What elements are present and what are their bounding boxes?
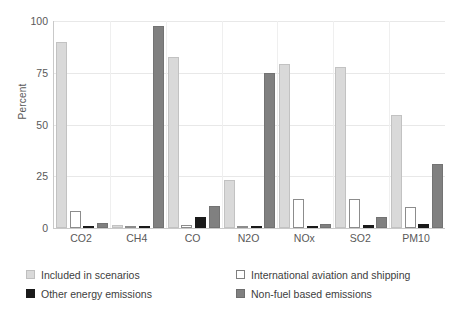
y-axis-tick-label: 75	[16, 68, 48, 79]
bar[interactable]	[83, 226, 94, 228]
legend-swatch-icon	[236, 289, 245, 298]
bar[interactable]	[432, 164, 443, 228]
bar[interactable]	[168, 57, 179, 228]
bar-groups	[54, 21, 445, 228]
bar-group	[389, 21, 445, 228]
x-axis-tick-label: CO2	[53, 232, 109, 250]
bar[interactable]	[181, 225, 192, 228]
bar[interactable]	[418, 224, 429, 228]
legend-label: Other energy emissions	[41, 288, 152, 300]
x-axis-tick-label: CH4	[109, 232, 165, 250]
legend-label: Included in scenarios	[41, 269, 140, 281]
y-axis-tick-label: 0	[16, 223, 48, 234]
bar[interactable]	[264, 73, 275, 228]
bar[interactable]	[349, 199, 360, 228]
bar[interactable]	[391, 115, 402, 228]
bar[interactable]	[293, 199, 304, 228]
bar[interactable]	[112, 225, 123, 228]
bar[interactable]	[376, 217, 387, 228]
bar[interactable]	[363, 225, 374, 228]
bar-group	[166, 21, 222, 228]
legend-item[interactable]: International aviation and shipping	[236, 265, 446, 284]
legend-item[interactable]: Included in scenarios	[26, 265, 236, 284]
bar-group	[222, 21, 278, 228]
bar[interactable]	[195, 217, 206, 228]
legend-swatch-icon	[236, 270, 245, 279]
x-axis-tick-label: CO	[165, 232, 221, 250]
bar[interactable]	[70, 211, 81, 228]
bar[interactable]	[405, 207, 416, 228]
bar[interactable]	[251, 226, 262, 228]
bar[interactable]	[125, 226, 136, 228]
x-axis-tick-label: N2O	[221, 232, 277, 250]
legend-label: International aviation and shipping	[251, 269, 410, 281]
bar[interactable]	[307, 226, 318, 228]
bar[interactable]	[209, 206, 220, 228]
x-axis-tick-label: NOx	[276, 232, 332, 250]
y-axis-tick-label: 100	[16, 16, 48, 27]
y-axis-tick-label: 50	[16, 120, 48, 131]
bar-chart: Percent 0255075100 CO2CH4CON2ONOxSO2PM10…	[0, 0, 467, 323]
bar[interactable]	[153, 26, 164, 228]
chart-legend: Included in scenariosInternational aviat…	[26, 265, 446, 303]
bar[interactable]	[237, 226, 248, 228]
bar-group	[110, 21, 166, 228]
x-axis-tick-label: SO2	[332, 232, 388, 250]
legend-item[interactable]: Non-fuel based emissions	[236, 284, 446, 303]
legend-swatch-icon	[26, 270, 35, 279]
bar[interactable]	[56, 42, 67, 228]
bar[interactable]	[279, 64, 290, 228]
x-axis-tick-labels: CO2CH4CON2ONOxSO2PM10	[53, 232, 444, 250]
legend-swatch-icon	[26, 289, 35, 298]
y-axis-tick-label: 25	[16, 171, 48, 182]
bar-group	[277, 21, 333, 228]
bar[interactable]	[97, 223, 108, 228]
legend-item[interactable]: Other energy emissions	[26, 284, 236, 303]
bar-group	[54, 21, 110, 228]
legend-label: Non-fuel based emissions	[251, 288, 372, 300]
bar[interactable]	[335, 67, 346, 228]
bar[interactable]	[320, 224, 331, 228]
bar[interactable]	[139, 226, 150, 228]
x-axis-tick-label: PM10	[388, 232, 444, 250]
bar[interactable]	[224, 180, 235, 228]
plot-area	[53, 21, 445, 229]
bar-group	[333, 21, 389, 228]
